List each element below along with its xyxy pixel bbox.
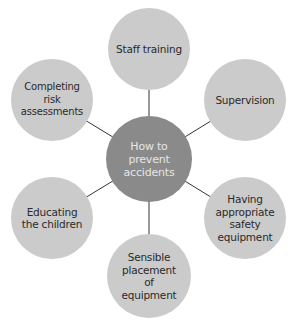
mind-map-diagram: Staff training Supervision Having approp… (0, 0, 295, 323)
node-sensible-placement: Sensible placement of equipment (107, 234, 191, 318)
node-supervision: Supervision (204, 59, 286, 141)
node-label: Sensible placement of equipment (117, 251, 181, 301)
node-label: Supervision (210, 94, 280, 107)
node-staff-training: Staff training (108, 8, 190, 90)
node-label: Completing risk assessments (17, 81, 87, 119)
node-risk-assessments: Completing risk assessments (11, 59, 93, 141)
node-educating-children: Educating the children (11, 177, 93, 259)
node-label: Staff training (114, 43, 184, 56)
node-safety-equipment: Having appropriate safety equipment (204, 177, 286, 259)
node-label: Having appropriate safety equipment (214, 193, 276, 243)
node-label: Educating the children (19, 206, 85, 231)
center-label: How to prevent accidents (124, 140, 175, 179)
node-center-how-to-prevent-accidents: How to prevent accidents (106, 116, 192, 202)
